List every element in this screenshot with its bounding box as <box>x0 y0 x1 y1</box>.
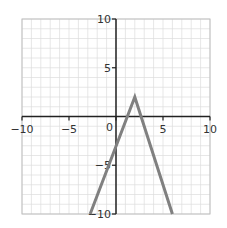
origin-label: 0 <box>106 121 113 134</box>
y-tick-label: 5 <box>104 62 111 75</box>
x-tick-label: −5 <box>61 123 77 136</box>
y-tick-label: 10 <box>97 13 111 26</box>
graph: −10−55100105−5−10 <box>0 0 227 228</box>
x-tick-label: 10 <box>203 123 217 136</box>
x-tick-label: −10 <box>10 123 33 136</box>
x-tick-label: 5 <box>160 123 167 136</box>
